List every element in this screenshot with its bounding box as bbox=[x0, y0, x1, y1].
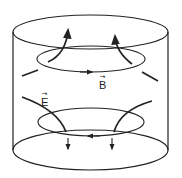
e-vector-arrow-icon: → bbox=[42, 90, 48, 98]
upper-left-arrow-curve bbox=[48, 30, 68, 62]
upper-field-lines bbox=[22, 30, 158, 81]
cylinder-bottom-rim-back bbox=[13, 130, 168, 150]
e-field-label: E → bbox=[41, 90, 48, 108]
cylinder-outline bbox=[13, 15, 168, 170]
lower-right-curve bbox=[114, 101, 152, 132]
upper-right-curve bbox=[142, 72, 158, 81]
cylinder-top-rim bbox=[13, 15, 168, 49]
b-field-label: B → bbox=[99, 73, 106, 91]
cylinder-field-diagram: B → E → bbox=[0, 0, 182, 178]
b-vector-arrow-icon: → bbox=[100, 73, 106, 81]
cylinder-bottom-rim bbox=[13, 150, 168, 170]
upper-left-curve bbox=[22, 70, 38, 76]
